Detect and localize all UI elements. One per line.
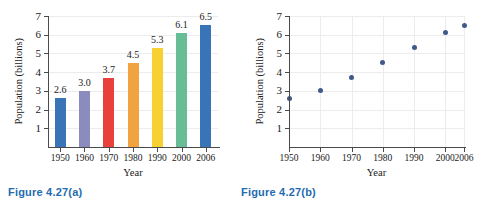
gridline-vertical [464, 16, 465, 147]
bar-2000 [176, 33, 187, 147]
gridline-horizontal [289, 110, 464, 111]
gridline-vertical [445, 16, 446, 147]
x-axis-line-a [48, 147, 220, 148]
y-axis-tick [285, 35, 289, 36]
y-axis-tick-label: 5 [262, 48, 282, 59]
bar-2006 [200, 25, 211, 147]
y-axis-tick [285, 53, 289, 54]
x-axis-line-b [289, 147, 466, 148]
y-axis-line-a [48, 16, 49, 148]
bar-value-label: 3.0 [70, 78, 98, 88]
data-point [412, 45, 417, 50]
y-axis-tick [44, 128, 48, 129]
x-axis-tick [289, 148, 290, 152]
y-axis-line-b [289, 16, 290, 148]
x-axis-tick [320, 148, 321, 152]
y-axis-tick-label: 2 [262, 104, 282, 115]
gridline-vertical [414, 16, 415, 147]
bar-value-label: 4.5 [119, 50, 147, 60]
y-axis-tick [44, 110, 48, 111]
bar-value-label: 6.5 [192, 12, 220, 22]
data-point [318, 88, 323, 93]
bar-1990 [152, 48, 163, 147]
x-axis-tick [464, 148, 465, 152]
x-axis-title-b: Year [347, 168, 407, 179]
y-axis-tick [44, 16, 48, 17]
x-axis-tick [414, 148, 415, 152]
y-axis-tick-label: 1 [21, 123, 41, 134]
y-axis-tick [285, 128, 289, 129]
bar-1980 [128, 63, 139, 147]
y-axis-tick [285, 16, 289, 17]
x-axis-tick [84, 148, 85, 152]
gridline-horizontal [289, 128, 464, 129]
x-axis-tick-label: 2006 [190, 154, 222, 164]
x-axis-tick-label: 1980 [367, 154, 399, 164]
y-axis-tick [285, 72, 289, 73]
bar-1960 [79, 91, 90, 147]
y-axis-title-b: Population (billions) [255, 26, 266, 136]
x-axis-tick [206, 148, 207, 152]
y-axis-tick [285, 91, 289, 92]
bar-value-label: 3.7 [95, 65, 123, 75]
x-axis-tick-label: 2006 [448, 154, 480, 164]
gridline-horizontal [289, 35, 464, 36]
y-axis-tick-label: 3 [21, 85, 41, 96]
y-axis-tick [44, 72, 48, 73]
figure-a-caption: Figure 4.27(a) [8, 186, 82, 198]
gridline-vertical [352, 16, 353, 147]
bar-1970 [103, 78, 114, 147]
x-axis-tick [133, 148, 134, 152]
figure-a: 2.63.03.74.55.36.16.5 Population (billio… [0, 0, 241, 207]
y-axis-tick-label: 5 [21, 48, 41, 59]
scatter-chart-plot-area [289, 16, 464, 147]
x-axis-tick [182, 148, 183, 152]
x-axis-tick [157, 148, 158, 152]
data-point [349, 75, 354, 80]
x-axis-tick-label: 1990 [398, 154, 430, 164]
bar-value-label: 5.3 [143, 35, 171, 45]
y-axis-tick-label: 2 [21, 104, 41, 115]
y-axis-tick-label: 1 [262, 123, 282, 134]
figure-group: 2.63.03.74.55.36.16.5 Population (billio… [0, 0, 482, 207]
gridline-horizontal [48, 35, 218, 36]
x-axis-tick [445, 148, 446, 152]
x-axis-title-a: Year [103, 168, 163, 179]
bar-chart-plot-area: 2.63.03.74.55.36.16.5 [48, 16, 218, 147]
x-axis-tick [109, 148, 110, 152]
y-axis-tick-label: 4 [262, 67, 282, 78]
y-axis-tick [44, 35, 48, 36]
gridline-horizontal [289, 16, 464, 17]
gridline-horizontal [289, 53, 464, 54]
gridline-vertical [320, 16, 321, 147]
figure-b-caption: Figure 4.27(b) [241, 186, 316, 198]
x-axis-tick [60, 148, 61, 152]
y-axis-title-a: Population (billions) [14, 26, 25, 136]
data-point [462, 23, 467, 28]
x-axis-tick-label: 1960 [304, 154, 336, 164]
figure-b: Population (billions) Year Figure 4.27(b… [241, 0, 482, 207]
y-axis-tick-label: 7 [21, 11, 41, 22]
y-axis-tick [44, 53, 48, 54]
y-axis-tick-label: 3 [262, 85, 282, 96]
gridline-horizontal [289, 91, 464, 92]
y-axis-tick [285, 110, 289, 111]
data-point [380, 60, 385, 65]
x-axis-tick [383, 148, 384, 152]
y-axis-tick [44, 91, 48, 92]
bar-1950 [55, 98, 66, 147]
x-axis-tick [352, 148, 353, 152]
y-axis-tick-label: 6 [21, 29, 41, 40]
x-axis-tick-label: 1950 [273, 154, 305, 164]
y-axis-tick-label: 7 [262, 11, 282, 22]
gridline-horizontal [289, 72, 464, 73]
y-axis-tick-label: 4 [21, 67, 41, 78]
y-axis-tick-label: 6 [262, 29, 282, 40]
x-axis-tick-label: 1970 [336, 154, 368, 164]
gridline-vertical [383, 16, 384, 147]
